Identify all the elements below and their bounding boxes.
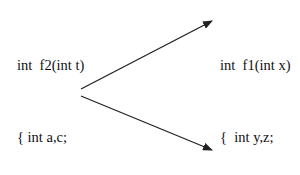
arrow-call-to-f1	[81, 21, 212, 89]
call-arrows	[0, 0, 300, 175]
arrow-return-from-f1	[81, 96, 212, 150]
